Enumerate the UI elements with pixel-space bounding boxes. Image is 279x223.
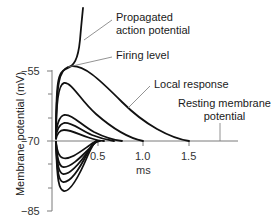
label-propagated-line2: action potential <box>116 24 190 37</box>
curve-local-response-2 <box>56 83 143 141</box>
x-axis-label: ms <box>136 164 151 176</box>
pointer-propagated <box>84 20 112 40</box>
x-tick-1.0: 1.0 <box>135 150 150 162</box>
label-propagated-action-potential: Propagated action potential <box>116 11 190 37</box>
label-propagated-line1: Propagated <box>116 11 190 24</box>
x-axis <box>52 141 238 146</box>
label-local-response: Local response <box>154 78 229 91</box>
label-firing-level: Firing level <box>116 49 169 62</box>
curve-depolarizing-5 <box>56 130 104 141</box>
y-axis-label: Membrane potential (mV) <box>14 68 26 200</box>
x-tick-0.5: 0.5 <box>90 150 105 162</box>
x-tick-1.5: 1.5 <box>181 150 196 162</box>
y-tick-minus85: −85 <box>21 205 40 217</box>
label-resting-line2: potential <box>178 110 271 123</box>
y-axis <box>47 70 52 211</box>
label-resting-line1: Resting membrane <box>178 97 271 110</box>
pointer-local-response <box>128 86 150 108</box>
label-resting-membrane-potential: Resting membrane potential <box>178 97 271 123</box>
